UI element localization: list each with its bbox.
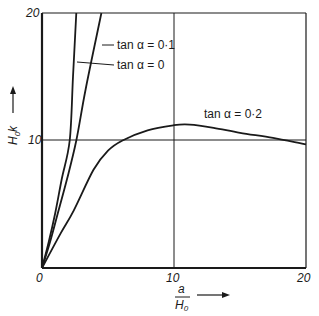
svg-text:H0: H0 [175,298,189,313]
up-arrowhead-icon [10,86,16,94]
tick-x20: 20 [296,271,311,285]
leader-tan0 [77,62,114,65]
y-axis-label: H0k [6,86,22,145]
label-tan02: tan α = 0·2 [204,107,262,121]
ylabel-tail: k [6,125,20,132]
tick-y20: 20 [25,6,40,20]
x-axis-label: a H0 [175,282,230,313]
label-tan0: tan α = 0 [117,58,165,72]
xlabel-num: a [178,282,185,296]
chart: tan α = 0·1 tan α = 0 tan α = 0·2 20 10 … [0,0,319,316]
tick-y10: 10 [28,133,42,147]
svg-text:H0k: H0k [6,125,22,145]
xlabel-den-sub: 0 [184,304,189,313]
label-tan01: tan α = 0·1 [117,38,175,52]
ylabel-main: H [6,136,20,145]
right-arrowhead-icon [222,292,230,298]
xlabel-den: H [175,298,184,312]
tick-x0: 0 [36,271,43,285]
